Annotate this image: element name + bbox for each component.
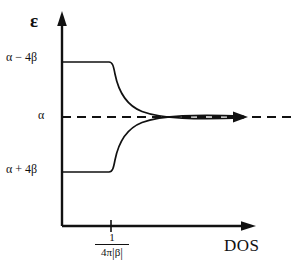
fraction-numerator: 1	[84, 232, 140, 244]
x-tick-label-one-over-four-pi-abs-beta: 1 4π|β|	[84, 232, 140, 259]
denominator-prefix: 4π	[101, 246, 112, 258]
y-tick-label-alpha-plus-4beta: α + 4β	[6, 163, 37, 175]
y-axis-label: ε	[30, 11, 38, 30]
fraction-denominator: 4π|β|	[84, 245, 140, 259]
x-axis-label: DOS	[224, 237, 260, 254]
abs-bar-close: |	[120, 245, 123, 260]
y-tick-label-alpha-minus-4beta: α − 4β	[6, 51, 37, 63]
y-tick-label-alpha: α	[38, 109, 44, 121]
